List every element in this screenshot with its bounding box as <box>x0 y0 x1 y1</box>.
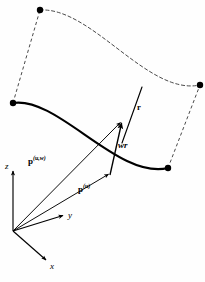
label-vector-p-uw: p(u,w) <box>28 155 46 166</box>
label-axis-z: z <box>5 162 9 171</box>
figure-canvas <box>0 0 205 282</box>
label-vector-r: r <box>137 103 141 112</box>
label-p-uw-superscript: (u,w) <box>33 155 46 161</box>
dot-base-curve-end <box>165 165 171 171</box>
dot-offset-curve-start <box>37 7 43 13</box>
dot-offset-curve-end <box>197 82 203 88</box>
label-vector-p-u: p(u) <box>78 183 90 194</box>
label-p-u-superscript: (u) <box>83 183 90 189</box>
label-vector-wr: wr <box>118 141 128 150</box>
offset-curve-figure: p(u,w) p(u) wr r x y z <box>0 0 205 282</box>
dot-base-curve-start <box>10 100 16 106</box>
label-axis-x: x <box>50 262 54 271</box>
label-axis-y: y <box>68 211 72 220</box>
